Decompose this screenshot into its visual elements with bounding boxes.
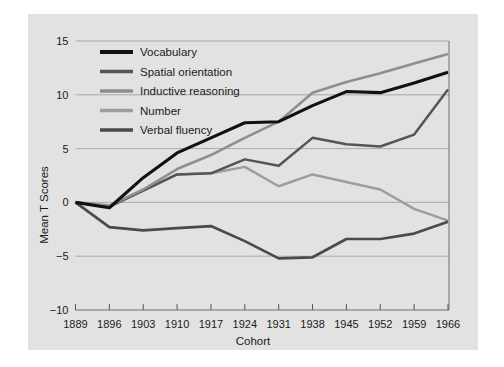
x-axis-title: Cohort — [236, 335, 271, 347]
legend-label-spatial-orientation: Spatial orientation — [140, 66, 232, 78]
y-tick-label: 5 — [62, 143, 68, 155]
y-tick-label: −5 — [56, 250, 69, 262]
data-series — [76, 54, 449, 258]
legend-label-vocabulary: Vocabulary — [140, 46, 197, 58]
x-tick-label: 1917 — [199, 318, 223, 330]
series-line-verbal-fluency — [76, 202, 449, 258]
y-tick-label: −10 — [50, 304, 69, 316]
tickmarks — [76, 304, 449, 310]
y-axis-title: Mean T Scores — [38, 166, 50, 244]
x-tick-label: 1889 — [63, 318, 87, 330]
y-tick-label: 15 — [56, 35, 68, 47]
chart-legend: VocabularySpatial orientationInductive r… — [100, 46, 240, 136]
y-tick-label: 10 — [56, 89, 68, 101]
x-tick-label: 1903 — [131, 318, 155, 330]
x-tick-label: 1931 — [266, 318, 290, 330]
legend-label-number: Number — [140, 105, 181, 117]
x-tick-label: 1924 — [233, 318, 257, 330]
x-tick-labels: 1889189619031910191719241931193819451952… — [63, 318, 460, 330]
gridlines — [76, 41, 450, 256]
x-tick-label: 1945 — [334, 318, 358, 330]
y-tick-labels: 151050−5−10 — [50, 35, 69, 316]
x-tick-label: 1938 — [300, 318, 324, 330]
x-tick-label: 1952 — [368, 318, 392, 330]
chart-figure: 151050−5−10 1889189619031910191719241931… — [0, 0, 504, 367]
y-tick-label: 0 — [62, 196, 68, 208]
x-tick-label: 1910 — [165, 318, 189, 330]
x-tick-label: 1966 — [436, 318, 460, 330]
legend-label-verbal-fluency: Verbal fluency — [140, 124, 212, 136]
x-tick-label: 1959 — [402, 318, 426, 330]
legend-label-inductive-reasoning: Inductive reasoning — [140, 85, 240, 97]
line-chart: 151050−5−10 1889189619031910191719241931… — [0, 0, 504, 367]
x-tick-label: 1896 — [97, 318, 121, 330]
